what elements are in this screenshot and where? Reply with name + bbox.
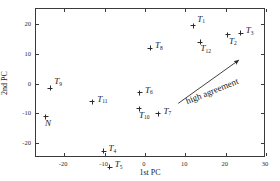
data-point-label: T9 bbox=[54, 76, 62, 86]
x-tick-top bbox=[185, 9, 186, 12]
data-point-label: N bbox=[45, 118, 51, 128]
data-point-label: T6 bbox=[145, 85, 153, 95]
x-tick-top bbox=[266, 9, 267, 12]
y-tick-label: 20 bbox=[0, 19, 31, 26]
x-tick-label: 0 bbox=[142, 160, 145, 167]
x-tick-label: 20 bbox=[221, 160, 228, 167]
data-point-label: T1 bbox=[197, 14, 205, 24]
y-tick-label: -10 bbox=[0, 109, 31, 116]
y-tick-right bbox=[261, 24, 264, 25]
x-tick-top bbox=[64, 9, 65, 12]
x-tick bbox=[266, 153, 267, 156]
x-tick-top bbox=[145, 9, 146, 12]
x-axis-title: 1st PC bbox=[139, 168, 160, 177]
x-tick bbox=[226, 153, 227, 156]
x-tick-label: 10 bbox=[181, 160, 188, 167]
y-tick-right bbox=[261, 113, 264, 114]
x-tick-label: -20 bbox=[59, 160, 68, 167]
data-point-label: T10 bbox=[139, 110, 150, 120]
data-point-label: T8 bbox=[155, 40, 163, 50]
y-tick bbox=[36, 54, 39, 55]
y-tick-right bbox=[261, 143, 264, 144]
x-tick bbox=[145, 153, 146, 156]
x-tick-top bbox=[226, 9, 227, 12]
data-point-label: T5 bbox=[115, 159, 123, 169]
data-point-label: T11 bbox=[97, 94, 107, 104]
x-tick-top bbox=[105, 9, 106, 12]
data-point-label: T7 bbox=[163, 106, 171, 116]
y-tick-right bbox=[261, 54, 264, 55]
data-point-label: T2 bbox=[229, 36, 237, 46]
y-tick bbox=[36, 84, 39, 85]
scatter-plot-figure: -20-10010203020100-10-20 T1T2T3T4T5T6T7T… bbox=[0, 0, 280, 181]
data-point-label: T12 bbox=[200, 43, 211, 53]
data-point-label: T4 bbox=[109, 143, 117, 153]
x-tick-label: -10 bbox=[99, 160, 108, 167]
data-point-label: T3 bbox=[246, 25, 254, 35]
y-tick-label: 10 bbox=[0, 49, 31, 56]
y-tick-right bbox=[261, 84, 264, 85]
x-tick bbox=[185, 153, 186, 156]
y-tick bbox=[36, 143, 39, 144]
x-tick bbox=[64, 153, 65, 156]
y-axis-title: 2nd PC bbox=[0, 71, 9, 95]
x-tick bbox=[105, 153, 106, 156]
y-tick bbox=[36, 113, 39, 114]
y-tick-label: -20 bbox=[0, 139, 31, 146]
x-tick-label: 30 bbox=[262, 160, 269, 167]
y-tick bbox=[36, 24, 39, 25]
